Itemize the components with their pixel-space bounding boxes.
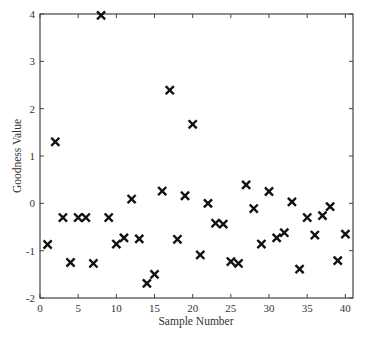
x-marker-point — [67, 259, 73, 265]
x-marker-point — [235, 260, 241, 266]
x-marker-point — [220, 221, 226, 227]
x-marker-point — [205, 200, 211, 206]
plot-frame — [40, 14, 353, 298]
x-tick-label: 40 — [340, 302, 352, 314]
x-tick-label: 0 — [37, 302, 43, 314]
x-marker-point — [174, 236, 180, 242]
x-marker-point — [289, 199, 295, 205]
x-marker-point — [335, 257, 341, 263]
x-marker-point — [52, 139, 58, 145]
plot-axes: 0510152025303540-2-101234 — [26, 8, 353, 314]
y-tick-label: 2 — [30, 103, 36, 115]
x-marker-point — [197, 252, 203, 258]
x-marker-point — [327, 203, 333, 209]
x-tick-label: 15 — [149, 302, 161, 314]
x-marker-point — [189, 121, 195, 127]
x-marker-point — [98, 12, 104, 18]
x-marker-point — [228, 258, 234, 264]
x-marker-point — [121, 235, 127, 241]
x-marker-point — [75, 214, 81, 220]
x-tick-label: 30 — [264, 302, 276, 314]
y-tick-label: 4 — [30, 8, 36, 20]
x-tick-label: 5 — [75, 302, 81, 314]
x-marker-point — [251, 205, 257, 211]
y-tick-label: 1 — [30, 150, 36, 162]
x-marker-point — [212, 220, 218, 226]
x-marker-point — [136, 236, 142, 242]
x-marker-point — [243, 182, 249, 188]
x-marker-point — [151, 271, 157, 277]
x-marker-point — [312, 232, 318, 238]
data-points — [44, 12, 348, 286]
x-marker-point — [296, 266, 302, 272]
y-tick-label: 3 — [30, 55, 36, 67]
y-axis-label: Goodness Value — [11, 119, 23, 193]
x-marker-point — [319, 212, 325, 218]
x-marker-point — [304, 214, 310, 220]
x-marker-point — [60, 214, 66, 220]
x-marker-point — [83, 214, 89, 220]
x-marker-point — [90, 260, 96, 266]
x-tick-label: 20 — [187, 302, 199, 314]
x-axis-label: Sample Number — [158, 315, 233, 328]
y-tick-label: -1 — [26, 245, 35, 257]
x-marker-point — [44, 241, 50, 247]
x-tick-label: 25 — [225, 302, 237, 314]
y-tick-label: -2 — [26, 292, 35, 304]
x-marker-point — [273, 235, 279, 241]
x-marker-point — [266, 188, 272, 194]
x-marker-point — [342, 231, 348, 237]
x-marker-point — [144, 280, 150, 286]
x-tick-label: 35 — [302, 302, 314, 314]
x-marker-point — [167, 87, 173, 93]
x-marker-point — [182, 193, 188, 199]
y-tick-label: 0 — [30, 197, 36, 209]
x-tick-label: 10 — [111, 302, 123, 314]
scatter-chart: 0510152025303540-2-101234 Sample Number … — [0, 0, 367, 341]
x-marker-point — [159, 188, 165, 194]
x-marker-point — [113, 241, 119, 247]
x-marker-point — [128, 196, 134, 202]
x-marker-point — [281, 229, 287, 235]
x-marker-point — [106, 214, 112, 220]
x-marker-point — [258, 241, 264, 247]
